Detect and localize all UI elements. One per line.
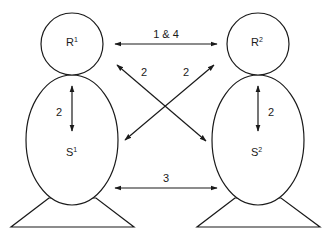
person-2: 2 R2 S2 xyxy=(197,13,320,227)
person-1: 2 R1 S1 xyxy=(11,13,134,227)
internal-arrow-1-label: 2 xyxy=(56,106,62,118)
internal-arrow-2-label: 2 xyxy=(268,106,274,118)
arrow-s1-r2-label: 2 xyxy=(183,66,189,78)
arrow-r1-r2-label: 1 & 4 xyxy=(153,28,179,40)
arrow-s1-s2-label: 3 xyxy=(163,172,169,184)
communication-diagram: 2 R1 S1 2 R2 S2 1 & 4 2 2 3 xyxy=(0,0,330,238)
arrow-r1-s2-label: 2 xyxy=(141,66,147,78)
arrow-r1-s2 xyxy=(117,65,206,141)
arrow-s1-r2 xyxy=(125,65,214,140)
